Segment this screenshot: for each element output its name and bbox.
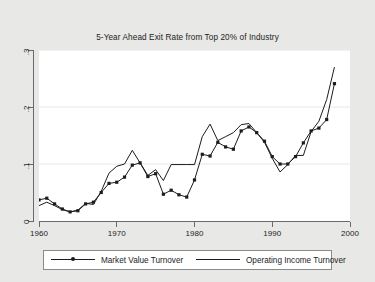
- legend-entry-operating-income: Operating Income Turnover: [196, 251, 346, 269]
- legend-label: Market Value Turnover: [101, 256, 183, 265]
- x-tick-label: 1960: [30, 229, 48, 238]
- x-axis: 19601970198019902000: [0, 0, 375, 282]
- x-tick: [272, 222, 273, 227]
- legend-label: Operating Income Turnover: [246, 256, 346, 265]
- x-tick: [39, 222, 40, 227]
- x-tick: [194, 222, 195, 227]
- legend-swatch-line-marker: [51, 254, 95, 266]
- x-tick-label: 2000: [341, 229, 359, 238]
- legend-swatch-line: [196, 254, 240, 266]
- x-tick: [350, 222, 351, 227]
- x-tick-label: 1970: [108, 229, 126, 238]
- legend-entry-market-value: Market Value Turnover: [51, 251, 183, 269]
- x-tick: [116, 222, 117, 227]
- chart-figure: 5-Year Ahead Exit Rate from Top 20% of I…: [0, 0, 375, 282]
- x-tick-label: 1990: [263, 229, 281, 238]
- x-tick-label: 1980: [186, 229, 204, 238]
- chart-legend: Market Value Turnover Operating Income T…: [43, 250, 332, 270]
